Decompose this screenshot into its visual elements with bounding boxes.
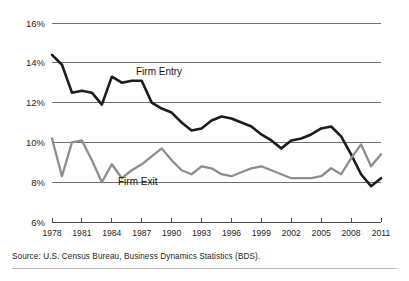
series-label-firm-entry: Firm Entry [136,66,182,77]
series-line-firm-entry [52,55,381,186]
x-axis [52,218,381,222]
x-tick-label: 1999 [252,228,271,238]
y-tick-label: 8% [31,177,45,188]
line-chart: 16%14%12%10%8%6% 19781981198419871990199… [0,0,409,281]
y-tick-label: 10% [26,137,46,148]
x-tick-label: 1993 [192,228,211,238]
x-tick-label: 2002 [282,228,301,238]
x-tick-label: 2005 [312,228,331,238]
y-tick-label: 16% [26,18,46,29]
x-tick-label: 1984 [102,228,121,238]
x-tick-label: 1987 [132,228,151,238]
source-note: Source: U.S. Census Bureau, Business Dyn… [12,252,260,261]
x-axis-tick-labels: 1978198119841987199019931996199920022005… [42,228,390,238]
x-tick-label: 1981 [72,228,91,238]
y-tick-label: 14% [26,57,46,68]
data-series [52,55,381,186]
bottom-divider [12,268,397,269]
y-axis-tick-labels: 16%14%12%10%8%6% [26,18,46,228]
x-tick-label: 1996 [222,228,241,238]
figure-container: 16%14%12%10%8%6% 19781981198419871990199… [0,0,409,281]
x-tick-label: 2008 [342,228,361,238]
series-line-firm-exit [52,138,381,182]
x-tick-label: 1990 [162,228,181,238]
x-tick-label: 1978 [42,228,61,238]
series-label-firm-exit: Firm Exit [118,176,158,187]
y-tick-label: 12% [26,97,46,108]
y-tick-label: 6% [31,217,45,228]
x-tick-label: 2011 [372,228,391,238]
